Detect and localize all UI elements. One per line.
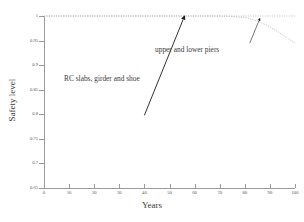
annotation-piers: upper and lower piers: [155, 45, 219, 54]
chart-figure: 0.650.70.750.80.850.90.951 0102030405060…: [0, 0, 304, 222]
annotation-arrow: [144, 16, 184, 115]
data-line-upper-and-lower-piers: [44, 16, 295, 43]
annotation-rc-slabs: RC slabs, girder and shoe: [64, 74, 140, 83]
data-series-group: [44, 16, 295, 43]
y-axis-title: Safety level: [7, 50, 17, 150]
plot-overlay: [0, 0, 304, 222]
x-axis-title: Years: [0, 200, 304, 210]
annotation-arrows: [144, 16, 259, 115]
annotation-arrow: [250, 18, 260, 43]
